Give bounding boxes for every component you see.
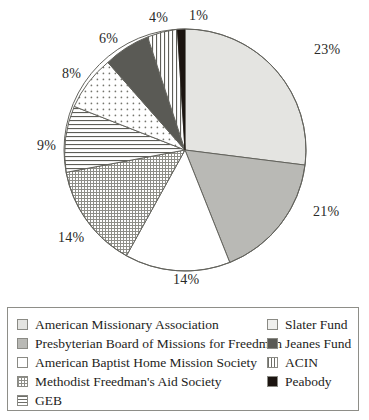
legend-swatch-icon-american-missionary-association xyxy=(17,319,28,330)
legend-swatch-icon-american-baptist-home-mission xyxy=(17,357,28,368)
legend-item-american-missionary-association[interactable]: American Missionary Association xyxy=(17,315,263,334)
legend-label-american-missionary-association: American Missionary Association xyxy=(35,318,219,332)
data-label-23: 23% xyxy=(314,42,340,58)
legend-label-presbyterian-board: Presbyterian Board of Missions for Freed… xyxy=(35,337,282,351)
legend-swatch-icon-geb xyxy=(17,395,28,406)
legend-item-methodist-freedmans-aid[interactable]: Methodist Freedman's Aid Society xyxy=(17,372,263,391)
legend-swatch-icon-methodist-freedmans-aid xyxy=(17,376,28,387)
data-label-14-baptist: 14% xyxy=(173,272,199,288)
legend-swatch-icon-peabody xyxy=(267,376,278,387)
legend-item-acin[interactable]: ACIN xyxy=(267,353,358,372)
legend-label-american-baptist-home-mission: American Baptist Home Mission Society xyxy=(35,356,257,370)
legend: American Missionary Association Presbyte… xyxy=(7,307,359,411)
data-label-6: 6% xyxy=(99,31,118,47)
pie-chart-area: 23% 21% 14% 14% 9% 8% 6% 4% 1% xyxy=(0,0,369,300)
legend-column-left: American Missionary Association Presbyte… xyxy=(8,315,263,410)
legend-item-jeanes-fund[interactable]: Jeanes Fund xyxy=(267,334,358,353)
legend-item-american-baptist-home-mission[interactable]: American Baptist Home Mission Society xyxy=(17,353,263,372)
legend-label-jeanes-fund: Jeanes Fund xyxy=(285,337,351,351)
data-label-14-methodist: 14% xyxy=(58,230,84,246)
legend-swatch-icon-jeanes-fund xyxy=(267,338,278,349)
data-label-21: 21% xyxy=(313,204,339,220)
legend-swatch-icon-presbyterian-board xyxy=(17,338,28,349)
data-label-8: 8% xyxy=(62,66,81,82)
legend-label-acin: ACIN xyxy=(285,356,318,370)
legend-label-peabody: Peabody xyxy=(285,375,332,389)
pie-slice-american-missionary-association xyxy=(185,29,306,165)
data-label-1: 1% xyxy=(189,8,208,24)
legend-item-presbyterian-board[interactable]: Presbyterian Board of Missions for Freed… xyxy=(17,334,263,353)
legend-label-geb: GEB xyxy=(35,394,62,408)
legend-swatch-icon-acin xyxy=(267,357,278,368)
data-label-4: 4% xyxy=(149,10,168,26)
legend-label-methodist-freedmans-aid: Methodist Freedman's Aid Society xyxy=(35,375,222,389)
legend-swatch-icon-slater-fund xyxy=(267,319,278,330)
legend-item-peabody[interactable]: Peabody xyxy=(267,372,358,391)
legend-item-geb[interactable]: GEB xyxy=(17,391,263,410)
legend-label-slater-fund: Slater Fund xyxy=(285,318,348,332)
data-label-9: 9% xyxy=(37,138,56,154)
legend-item-slater-fund[interactable]: Slater Fund xyxy=(267,315,358,334)
legend-column-right: Slater Fund Jeanes Fund ACIN Peabody xyxy=(263,315,358,410)
